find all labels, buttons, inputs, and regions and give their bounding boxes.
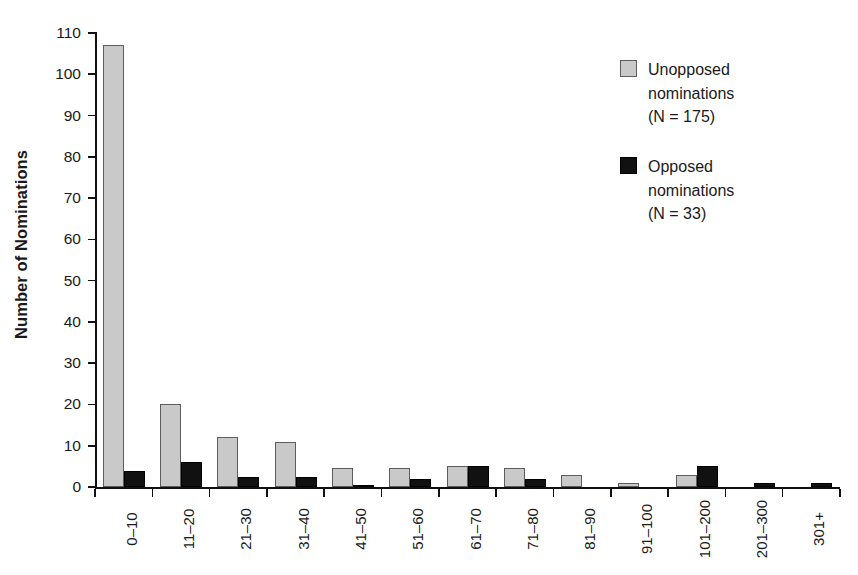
bar-group: [275, 32, 317, 487]
bar-unopposed: [618, 483, 639, 487]
bar-unopposed: [504, 468, 525, 487]
legend-entry: Opposednominations(N = 33): [620, 155, 850, 226]
x-axis-tick: [381, 489, 383, 497]
legend-label: Opposednominations(N = 33): [648, 155, 734, 226]
x-axis-tick-label-text: 51–60: [410, 508, 425, 550]
y-axis-tick-label: 0: [72, 479, 81, 495]
y-axis-tick-label: 100: [55, 67, 81, 83]
y-axis-tick: 40: [88, 321, 95, 323]
bar-group: [504, 32, 546, 487]
y-axis-tick-label: 110: [56, 25, 81, 41]
x-axis-tick-label-text: 301+: [811, 512, 826, 546]
bar-group: [389, 32, 431, 487]
unopposed-swatch: [620, 60, 637, 77]
x-axis-tick: [839, 489, 841, 497]
legend-label-line: (N = 33): [648, 202, 734, 226]
x-axis-tick-label-text: 41–50: [353, 508, 368, 550]
x-axis-tick-label-text: 0–10: [124, 512, 139, 545]
legend-label-line: Opposed: [648, 155, 734, 179]
legend-label-line: nominations: [648, 82, 734, 106]
x-axis-tick: [667, 489, 669, 497]
x-axis-tick: [438, 489, 440, 497]
bar-unopposed: [103, 45, 124, 487]
bar-opposed: [181, 462, 202, 487]
bar-opposed: [124, 471, 145, 488]
y-axis-tick: 0: [88, 486, 95, 488]
x-axis-line: [95, 487, 840, 489]
y-axis-title: Number of Nominations: [4, 0, 40, 488]
bar-opposed: [525, 479, 546, 487]
bar-unopposed: [275, 442, 296, 487]
y-axis-title-text: Number of Nominations: [13, 149, 32, 338]
bar-unopposed: [389, 468, 410, 487]
x-axis-tick-label-text: 81–90: [582, 508, 597, 550]
y-axis-tick-label: 10: [64, 438, 81, 454]
x-axis-tick: [610, 489, 612, 497]
y-axis-tick-label: 60: [64, 232, 81, 248]
bar-unopposed: [160, 404, 181, 487]
bar-unopposed: [332, 468, 353, 487]
legend-label: Unopposednominations(N = 175): [648, 58, 734, 129]
y-axis-tick-label: 50: [64, 273, 81, 289]
bar-group: [561, 32, 603, 487]
y-axis-tick-label: 30: [64, 355, 81, 371]
y-axis-tick: 20: [88, 404, 95, 406]
chart-legend: Unopposednominations(N = 175)Opposednomi…: [620, 58, 850, 252]
bar-chart-figure: Number of Nominations 010203040506070809…: [0, 0, 858, 575]
legend-label-line: nominations: [648, 179, 734, 203]
x-axis-tick: [323, 489, 325, 497]
x-axis-tick-label-text: 31–40: [296, 508, 311, 550]
x-axis-tick-label-text: 101–200: [697, 500, 712, 558]
x-axis-tick: [209, 489, 211, 497]
x-axis-tick-label-text: 21–30: [238, 508, 253, 550]
bar-unopposed: [217, 437, 238, 487]
legend-label-line: Unopposed: [648, 58, 734, 82]
bar-opposed: [468, 466, 489, 487]
x-axis-tick: [266, 489, 268, 497]
y-axis-tick: 80: [88, 156, 95, 158]
y-axis-tick-label: 80: [64, 149, 81, 165]
y-axis-tick-label: 70: [64, 190, 81, 206]
y-axis-tick: 50: [88, 280, 95, 282]
bar-group: [160, 32, 202, 487]
y-axis-tick: 90: [88, 115, 95, 117]
x-axis-tick-label-text: 11–20: [181, 509, 196, 550]
x-axis-tick-label-text: 61–70: [468, 508, 483, 550]
bar-opposed: [811, 483, 832, 487]
x-axis-tick-label-text: 91–100: [639, 504, 654, 554]
bar-opposed: [410, 479, 431, 487]
y-axis-tick: 100: [88, 73, 95, 75]
y-axis-tick: 10: [88, 445, 95, 447]
bar-group: [447, 32, 489, 487]
y-axis-tick-label: 40: [64, 314, 81, 330]
bar-opposed: [353, 485, 374, 487]
bar-group: [332, 32, 374, 487]
bar-group: [217, 32, 259, 487]
y-axis-tick: 110: [88, 32, 95, 34]
y-axis-tick-label: 20: [64, 397, 81, 413]
bar-unopposed: [447, 466, 468, 487]
bar-opposed: [697, 466, 718, 487]
x-axis-tick: [782, 489, 784, 497]
bar-opposed: [296, 477, 317, 487]
x-axis-tick: [553, 489, 555, 497]
bar-opposed: [238, 477, 259, 487]
x-axis-tick: [94, 489, 96, 497]
bar-opposed: [754, 483, 775, 487]
x-axis-tick: [725, 489, 727, 497]
y-axis-tick: 30: [88, 362, 95, 364]
bar-unopposed: [561, 475, 582, 487]
y-axis-line: [95, 32, 97, 488]
legend-label-line: (N = 175): [648, 105, 734, 129]
legend-entry: Unopposednominations(N = 175): [620, 58, 850, 129]
opposed-swatch: [620, 157, 637, 174]
x-axis-tick-label-text: 201–300: [754, 500, 769, 558]
x-axis-tick: [152, 489, 154, 497]
bar-unopposed: [676, 475, 697, 487]
x-axis-tick-label-text: 71–80: [525, 508, 540, 550]
x-axis-tick: [495, 489, 497, 497]
bar-group: [103, 32, 145, 487]
y-axis-tick: 60: [88, 239, 95, 241]
y-axis-tick: 70: [88, 197, 95, 199]
y-axis-tick-label: 90: [64, 108, 81, 124]
